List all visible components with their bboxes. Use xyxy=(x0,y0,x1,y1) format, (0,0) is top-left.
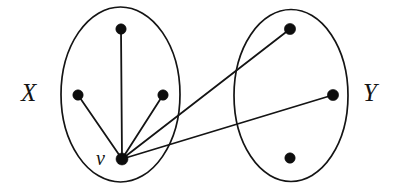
vertex-y-top xyxy=(284,23,295,34)
edge-v-to-x-top xyxy=(121,29,122,159)
edge-v-to-y-top xyxy=(122,29,290,159)
graph-edges xyxy=(78,29,333,159)
vertex-y-bottom xyxy=(285,153,295,163)
vertex-label-v: v xyxy=(96,148,105,168)
graph-svg xyxy=(0,0,404,192)
edge-v-to-x-right xyxy=(122,95,163,159)
vertex-x-left xyxy=(73,90,83,100)
set-label-y: Y xyxy=(363,80,377,105)
edge-v-to-y-mid xyxy=(122,95,333,159)
vertex-x-right xyxy=(158,90,168,100)
vertex-v xyxy=(116,153,128,165)
vertex-y-mid xyxy=(327,89,338,100)
figure-canvas: X Y v xyxy=(0,0,404,192)
set-label-x: X xyxy=(21,80,36,105)
vertex-x-top xyxy=(116,24,126,34)
